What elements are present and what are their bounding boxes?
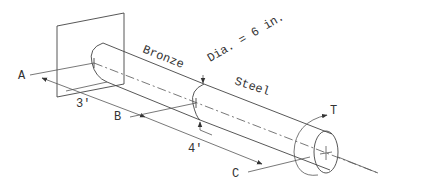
leader-a [30, 63, 94, 75]
shaft-diagram: A B C 3' 4' T Bronze Steel Dia. = 6 in. [0, 0, 425, 189]
label-diameter: Dia. = 6 in. [205, 10, 287, 65]
label-length-4ft: 4' [188, 142, 202, 156]
label-b: B [114, 110, 121, 124]
label-length-3ft: 3' [76, 97, 90, 111]
label-c: C [232, 167, 239, 181]
label-torque: T [330, 104, 337, 118]
dimension-3ft [42, 78, 145, 117]
leader-c [248, 157, 310, 172]
torque-arrow [294, 115, 327, 175]
dimension-4ft [145, 117, 262, 164]
label-steel: Steel [233, 74, 272, 98]
label-a: A [18, 69, 26, 83]
